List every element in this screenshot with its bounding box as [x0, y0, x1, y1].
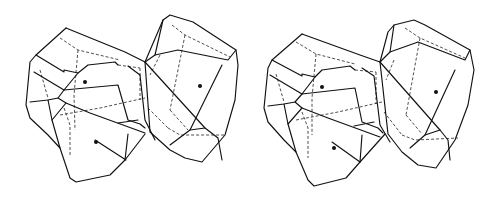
hidden-edge: [170, 110, 188, 130]
stereo-figure: [0, 0, 500, 198]
hidden-edge: [402, 135, 458, 140]
cell-nucleus-dot: [83, 80, 87, 84]
hidden-edge: [406, 115, 422, 134]
left-stereo-view: [0, 0, 250, 198]
cell-nucleus-dot: [94, 140, 98, 144]
visible-edge: [52, 103, 66, 120]
visible-edge: [270, 75, 302, 94]
hidden-edge: [296, 42, 355, 64]
visible-edge: [268, 77, 315, 106]
visible-edge: [380, 42, 470, 62]
visible-edge: [58, 98, 145, 133]
visible-edge: [332, 142, 360, 162]
cell-nucleus-dot: [434, 90, 438, 94]
right-stereo-view: [250, 0, 500, 198]
visible-edge: [155, 20, 163, 55]
visible-edge: [34, 72, 64, 90]
visible-edge: [66, 28, 145, 62]
hidden-edge: [60, 98, 145, 115]
visible-edge: [190, 128, 205, 130]
polyhedra-left-svg: [0, 0, 250, 198]
visible-edge: [95, 140, 126, 160]
hidden-edge: [40, 70, 48, 98]
visible-edge: [288, 108, 302, 124]
hidden-edge: [276, 74, 284, 102]
visible-edge: [360, 134, 385, 162]
hidden-edge: [406, 38, 420, 115]
visible-edge: [380, 62, 450, 160]
visible-edge: [284, 104, 296, 152]
hidden-edge: [64, 108, 70, 155]
visible-edge: [30, 73, 78, 102]
cell-nucleus-dot: [320, 85, 324, 89]
hidden-edge: [148, 108, 168, 128]
hidden-edge: [74, 50, 78, 130]
visible-edge: [145, 50, 236, 62]
visible-edge: [145, 62, 222, 160]
hidden-edge: [312, 54, 316, 135]
hidden-edge: [170, 35, 185, 110]
visible-edge: [380, 20, 474, 168]
visible-edge: [64, 85, 145, 128]
hidden-edge: [60, 38, 120, 60]
visible-edge: [302, 34, 380, 62]
cell-nucleus-dot: [198, 84, 202, 88]
visible-edge: [410, 70, 455, 148]
visible-edge: [272, 60, 355, 77]
visible-edge: [302, 88, 383, 133]
polyhedra-right-svg: [250, 0, 500, 198]
visible-edge: [26, 28, 128, 182]
visible-edge: [170, 65, 222, 145]
cell-nucleus-dot: [332, 146, 336, 150]
